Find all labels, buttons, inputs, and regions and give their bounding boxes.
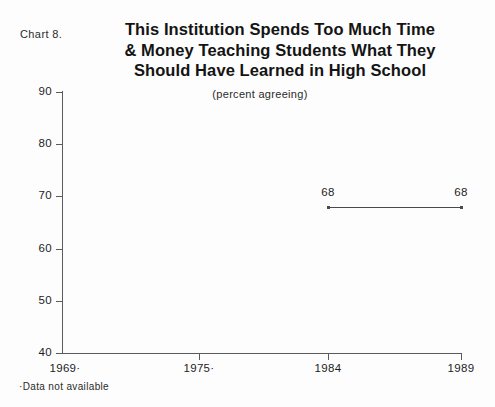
x-axis-tick-mark: [461, 353, 462, 360]
x-axis-tick-label: 1969·: [30, 362, 100, 374]
series-line-segment: [328, 207, 461, 208]
series-value-label: 68: [441, 186, 481, 198]
x-axis-tick-label: 1984: [293, 362, 363, 374]
x-axis-tick-label: 1975·: [164, 362, 234, 374]
y-axis-tick-label: 80: [22, 137, 52, 149]
title-line-2: & Money Teaching Students What They: [78, 40, 482, 61]
chart-title: This Institution Spends Too Much Time & …: [78, 19, 482, 81]
y-axis-tick-mark: [56, 353, 62, 354]
y-axis-tick-label: 40: [22, 346, 52, 358]
chart-page: Chart 8. This Institution Spends Too Muc…: [0, 0, 495, 407]
title-line-1: This Institution Spends Too Much Time: [78, 19, 482, 40]
x-axis-line: [62, 353, 462, 354]
x-axis-tick-mark: [328, 353, 329, 360]
series-data-point: [327, 206, 330, 209]
title-line-3: Should Have Learned in High School: [78, 60, 482, 81]
chart-number-label: Chart 8.: [20, 28, 62, 40]
y-axis-tick-label: 90: [22, 85, 52, 97]
series-value-label: 68: [308, 186, 348, 198]
x-axis-tick-mark: [199, 353, 200, 360]
y-axis-tick-label: 60: [22, 242, 52, 254]
plot-area: [62, 92, 461, 353]
series-data-point: [460, 206, 463, 209]
y-axis-tick-label: 70: [22, 189, 52, 201]
x-axis-tick-label: 1989: [426, 362, 495, 374]
footnote-text: ·Data not available: [19, 381, 109, 392]
y-axis-tick-label: 50: [22, 294, 52, 306]
